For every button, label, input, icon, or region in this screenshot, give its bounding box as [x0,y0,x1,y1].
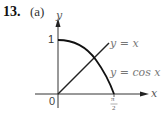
label-y-equals-x: y = x [110,37,139,50]
label-y-equals-cos-x: y = cos x [110,66,161,79]
graph [0,0,162,119]
x-axis-label: x [151,87,157,100]
y-axis-label: y [56,9,62,22]
x-tick-numerator: π [111,95,115,103]
y-tick-label: 1 [48,33,54,45]
origin-label: 0 [49,95,55,107]
x-tick-denominator: 2 [112,104,116,112]
x-axis-arrow-icon [140,92,149,97]
